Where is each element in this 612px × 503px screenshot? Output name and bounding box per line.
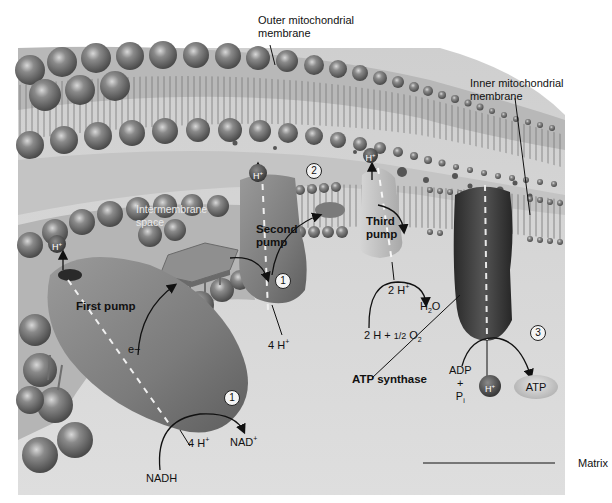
h-ion-first: H+ — [48, 235, 66, 253]
h-charge: + — [405, 283, 409, 290]
h-ion-third: H+ — [363, 148, 378, 163]
h-ion-charge: + — [372, 152, 376, 158]
inner-membrane-label: Inner mitochondrial membrane — [470, 77, 564, 103]
h-ion-charge: + — [259, 170, 263, 176]
diagram-artwork — [0, 0, 612, 503]
oxygen-eq-pre: 2 H + — [364, 329, 394, 341]
adp-text: ADP — [449, 364, 472, 377]
pi-sub: i — [463, 397, 465, 404]
outer-membrane-label-line2: membrane — [258, 27, 354, 40]
atp-synthase-label: ATP synthase — [352, 373, 427, 386]
oxygen-half: 1/2 — [394, 331, 407, 341]
atp-molecule: ATP — [514, 375, 558, 399]
inner-membrane-label-line2: membrane — [470, 90, 564, 103]
water-label: H2O — [420, 300, 440, 317]
oxygen-o: O — [409, 329, 418, 341]
inner-membrane-label-line1: Inner mitochondrial — [470, 77, 564, 90]
electron-label: e− — [128, 343, 141, 356]
four-h-first-label: 4 H+ — [188, 433, 209, 450]
water-h: H — [420, 300, 428, 312]
water-o: O — [432, 300, 441, 312]
plus-text: + — [449, 377, 472, 390]
four-h-second-label: 4 H+ — [268, 335, 289, 352]
oxygen-sub: 2 — [418, 336, 422, 343]
third-pump-label-line1: Third — [366, 215, 397, 228]
h-ion-charge: + — [58, 241, 62, 247]
nad-charge: + — [253, 435, 257, 442]
four-h-text: 4 H — [188, 437, 205, 449]
outer-membrane-label: Outer mitochondrial membrane — [258, 14, 354, 40]
h-ion-atp-synthase: H+ — [479, 375, 501, 397]
second-pump-label-line1: Second — [256, 223, 298, 236]
third-pump-label: Third pump — [366, 215, 397, 241]
oxygen-equation-label: 2 H + 1/2 O2 — [364, 329, 422, 346]
h-charge: + — [205, 436, 209, 443]
h-charge: + — [285, 338, 289, 345]
first-pump-label: First pump — [76, 300, 135, 313]
adp-pi-label: ADP + Pi — [449, 364, 472, 407]
second-pump-label-line2: pump — [256, 236, 298, 249]
nadh-label: NADH — [146, 472, 177, 485]
h-ion-charge: + — [491, 383, 495, 389]
step-2-marker: 2 — [306, 163, 322, 179]
outer-membrane-label-line1: Outer mitochondrial — [258, 14, 354, 27]
third-pump-label-line2: pump — [366, 228, 397, 241]
two-h-text: 2 H — [388, 284, 405, 296]
step-1-marker-matrix: 1 — [224, 390, 240, 406]
h-ion-second: H+ — [249, 164, 267, 182]
intermembrane-label-line2: space — [136, 216, 207, 229]
intermembrane-label-line1: Intermembrane — [136, 203, 207, 216]
two-h-label: 2 H+ — [388, 280, 409, 297]
step-3-marker: 3 — [530, 325, 546, 341]
four-h-text: 4 H — [268, 339, 285, 351]
nad-plus-label: NAD+ — [230, 432, 257, 449]
step-1-marker-pump: 1 — [275, 273, 291, 289]
etc-diagram: Outer mitochondrial membrane Inner mitoc… — [0, 0, 612, 503]
nad-text: NAD — [230, 436, 253, 448]
matrix-label: Matrix — [578, 457, 608, 470]
intermembrane-space-label: Intermembrane space — [136, 203, 207, 229]
second-pump-label: Second pump — [256, 223, 298, 249]
